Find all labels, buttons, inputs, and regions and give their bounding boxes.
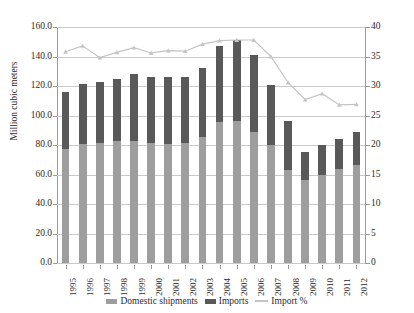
y-tick-mark-right [366,116,370,117]
x-tick-label: 2011 [343,278,352,296]
import-percent-marker [80,44,85,48]
x-tick-label: 2003 [206,278,215,296]
x-tick-mark [339,265,340,269]
x-tick-mark [185,265,186,269]
y-tick-label-right: 5 [371,229,376,239]
x-tick-mark [66,265,67,269]
x-tick-label: 2010 [326,278,335,296]
y-tick-label-right: 10 [371,199,381,209]
x-tick-label: 2012 [360,278,369,296]
x-tick-mark [254,265,255,269]
y-tick-label-right: 25 [371,111,381,121]
x-tick-mark [117,265,118,269]
y-tick-label-left: 160.0 [0,22,52,32]
x-tick-label: 2007 [274,278,283,296]
y-tick-label-right: 20 [371,140,381,150]
y-tick-label-left: 40.0 [0,199,52,209]
y-tick-mark-right [366,204,370,205]
import-percent-line [57,27,365,263]
y-tick-label-left: 60.0 [0,170,52,180]
x-tick-label: 2002 [189,278,198,296]
x-tick-mark [356,265,357,269]
y-tick-label-left: 80.0 [0,140,52,150]
y-tick-label-left: 100.0 [0,111,52,121]
y-tick-mark-right [366,27,370,28]
legend-label: Imports [219,296,249,306]
x-tick-label: 1995 [69,278,78,296]
chart-container: Million cubic meters 0.020.040.060.080.0… [0,0,414,313]
y-tick-mark-right [366,175,370,176]
legend-item[interactable]: Import % [255,296,307,306]
x-tick-label: 1996 [86,278,95,296]
legend-label: Import % [271,296,307,306]
x-tick-label: 2004 [223,278,232,296]
x-tick-mark [83,265,84,269]
legend-item[interactable]: Domestic shipments [106,296,197,306]
y-tick-mark-right [366,57,370,58]
y-tick-mark-right [366,86,370,87]
x-tick-label: 2008 [292,278,301,296]
x-tick-mark [288,265,289,269]
x-tick-mark [202,265,203,269]
x-tick-label: 1998 [120,278,129,296]
y-tick-mark-right [366,263,370,264]
legend-item[interactable]: Imports [205,296,249,306]
legend-label: Domestic shipments [120,296,197,306]
x-tick-label: 2009 [309,278,318,296]
y-tick-label-left: 0.0 [0,258,52,268]
chart-legend: Domestic shipmentsImportsImport % [0,296,414,306]
x-tick-label: 2000 [155,278,164,296]
x-tick-mark [220,265,221,269]
plot-area [57,27,365,263]
y-tick-label-right: 0 [371,258,376,268]
x-tick-mark [151,265,152,269]
y-tick-label-left: 20.0 [0,229,52,239]
y-tick-label-right: 40 [371,22,381,32]
import-percent-marker [320,92,325,96]
y-tick-mark-right [366,145,370,146]
x-tick-label: 2005 [240,278,249,296]
y-tick-label-right: 15 [371,170,381,180]
legend-square-swatch [205,299,216,304]
y-tick-mark-right [366,234,370,235]
gridline [57,263,365,264]
x-tick-mark [237,265,238,269]
x-tick-mark [305,265,306,269]
y-tick-label-left: 120.0 [0,81,52,91]
x-tick-label: 1999 [138,278,147,296]
x-tick-mark [134,265,135,269]
y-axis-right-line [365,27,366,264]
import-percent-polyline [66,40,357,105]
x-tick-mark [271,265,272,269]
x-tick-label: 1997 [103,278,112,296]
x-tick-mark [322,265,323,269]
y-tick-label-left: 140.0 [0,52,52,62]
legend-square-swatch [106,299,117,304]
y-tick-label-right: 30 [371,81,381,91]
x-tick-mark [100,265,101,269]
y-tick-label-right: 35 [371,52,381,62]
x-tick-mark [168,265,169,269]
x-tick-label: 2001 [172,278,181,296]
legend-line-swatch [255,300,268,302]
x-axis-labels: 1995199619971998199920002001200220032004… [57,265,365,299]
x-tick-label: 2006 [257,278,266,296]
